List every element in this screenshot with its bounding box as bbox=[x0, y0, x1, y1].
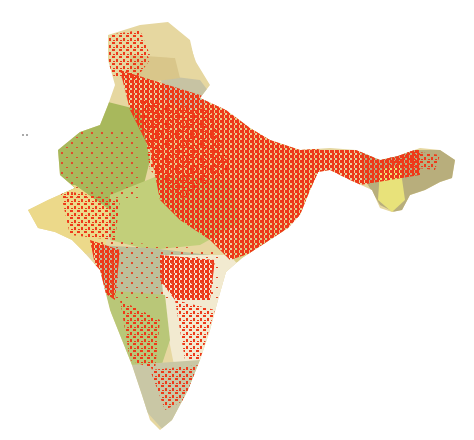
red-overlay bbox=[40, 35, 440, 410]
island-dot bbox=[26, 134, 28, 136]
india-landmass bbox=[0, 0, 474, 440]
india-map bbox=[0, 0, 474, 440]
island-dot bbox=[22, 134, 24, 136]
